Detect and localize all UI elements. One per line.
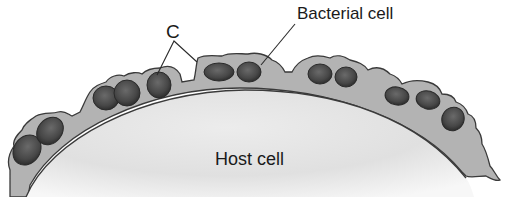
bacterium-icon	[204, 63, 234, 81]
leader-line-bacterial-cell	[261, 24, 295, 65]
bacterium-icon	[335, 67, 357, 87]
edge-fade	[440, 150, 518, 197]
bacterium-icon	[147, 72, 171, 98]
label-c: C	[166, 22, 180, 41]
label-host-cell: Host cell	[215, 150, 284, 168]
diagram-stage: C Bacterial cell Host cell	[0, 0, 518, 197]
bacterium-icon	[308, 64, 332, 84]
bacterium-icon	[114, 80, 140, 106]
bacterium-icon	[237, 62, 261, 82]
label-bacterial-cell: Bacterial cell	[297, 5, 393, 22]
